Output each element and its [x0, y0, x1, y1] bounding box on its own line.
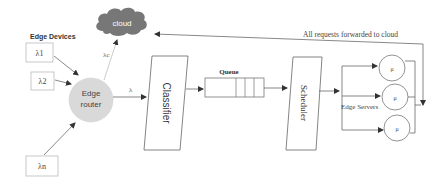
router-label-line2: router: [81, 100, 102, 109]
edge-devices-heading: Edge Devices: [30, 33, 76, 41]
diagram-canvas: Edge Devices λ1 λ2 λn Edge router cloud …: [0, 0, 444, 183]
rate-to-cloud: λc: [103, 51, 110, 59]
classifier-label: Classifier: [161, 82, 172, 124]
arrow-router-cloud: [104, 40, 117, 80]
server-rate: μ: [390, 66, 393, 72]
device-label: λ1: [36, 49, 44, 58]
queue: Queue: [205, 68, 264, 97]
arrow-device2-router: [55, 80, 71, 84]
arrow-devicen-router: [44, 123, 75, 155]
router-label-line1: Edge: [82, 89, 101, 98]
edge-servers-label: Edge Servers: [341, 103, 378, 111]
device-lambda1: λ1: [26, 43, 53, 62]
server-rate: μ: [395, 126, 398, 132]
edge-server-1: μ: [379, 55, 405, 81]
arrow-device1-router: [54, 56, 78, 75]
scheduler: Scheduler: [286, 57, 322, 150]
edge-router: Edge router: [69, 78, 113, 122]
device-lambda2: λ2: [31, 72, 54, 90]
device-lambdan: λn: [26, 156, 58, 176]
edge-server-2: μ: [382, 84, 408, 110]
classifier: Classifier: [144, 56, 188, 150]
queue-label: Queue: [219, 68, 238, 76]
server-rate: μ: [393, 95, 396, 101]
feedback-label: All requests forwarded to cloud: [303, 30, 398, 39]
edge-server-3: μ: [384, 115, 410, 141]
scheduler-label: Scheduler: [299, 85, 309, 121]
device-label: λ2: [39, 77, 47, 86]
device-label: λn: [38, 162, 46, 171]
cloud-label: cloud: [112, 19, 131, 28]
cloud: cloud: [96, 8, 147, 36]
rate-to-classifier: λ: [129, 86, 133, 94]
